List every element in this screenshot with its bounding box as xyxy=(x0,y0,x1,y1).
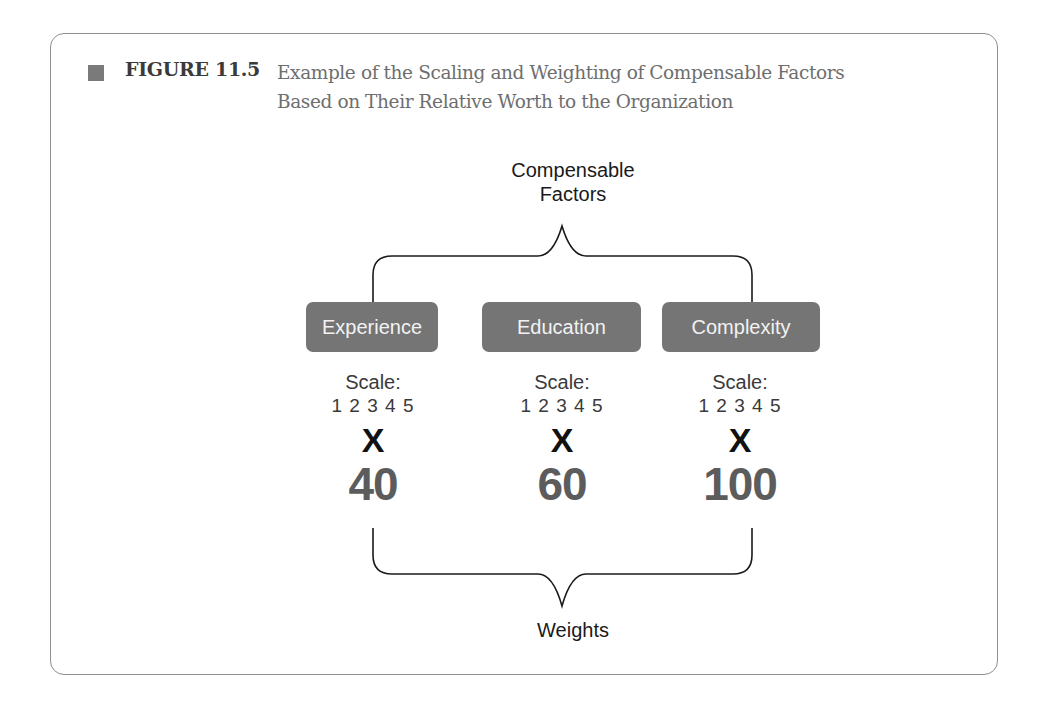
factor-column-education: Scale: 1 2 3 4 5 X 60 xyxy=(502,370,622,509)
braces-graphic xyxy=(0,0,1049,716)
factor-column-experience: Scale: 1 2 3 4 5 X 40 xyxy=(313,370,433,509)
factor-box-experience: Experience xyxy=(306,302,438,352)
factor-box-education: Education xyxy=(482,302,641,352)
factor-column-complexity: Scale: 1 2 3 4 5 X 100 xyxy=(680,370,800,509)
weight-value: 40 xyxy=(313,459,433,509)
factor-label: Experience xyxy=(322,316,422,339)
scale-label: Scale: xyxy=(313,370,433,394)
scale-label: Scale: xyxy=(502,370,622,394)
scale-values: 1 2 3 4 5 xyxy=(502,394,622,418)
multiply-sign: X xyxy=(502,421,622,459)
multiply-sign: X xyxy=(680,421,800,459)
factor-label: Education xyxy=(517,316,606,339)
multiply-sign: X xyxy=(313,421,433,459)
weight-value: 60 xyxy=(502,459,622,509)
top-brace xyxy=(373,226,752,302)
scale-values: 1 2 3 4 5 xyxy=(313,394,433,418)
scale-values: 1 2 3 4 5 xyxy=(680,394,800,418)
factor-label: Complexity xyxy=(692,316,791,339)
weight-value: 100 xyxy=(680,459,800,509)
weights-label: Weights xyxy=(463,618,683,642)
factor-box-complexity: Complexity xyxy=(662,302,820,352)
scale-label: Scale: xyxy=(680,370,800,394)
bottom-brace xyxy=(373,528,752,606)
